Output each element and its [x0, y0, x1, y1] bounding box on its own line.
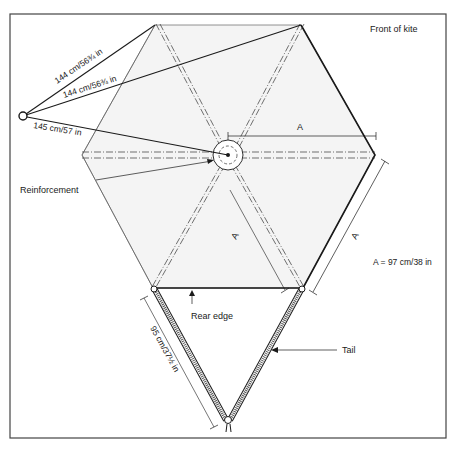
- dimension-a-top-label: A: [297, 122, 303, 132]
- kite-diagram: Front of kite 144 cm/56¾ in 144 cm/56¾ i…: [0, 0, 456, 450]
- bridle-ring: [19, 112, 27, 120]
- tail-label: Tail: [342, 345, 356, 355]
- reinforcement-label: Reinforcement: [20, 185, 79, 195]
- rear-edge-label: Rear edge: [191, 311, 233, 321]
- a-value-label: A = 97 cm/38 in: [373, 257, 432, 267]
- diagram-title: Front of kite: [370, 24, 418, 34]
